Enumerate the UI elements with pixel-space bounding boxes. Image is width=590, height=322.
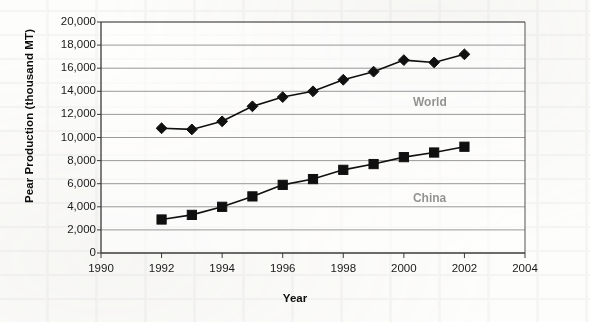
data-point-marker — [308, 174, 317, 183]
data-point-marker — [399, 153, 408, 162]
data-point-marker — [187, 210, 196, 219]
data-point-marker — [278, 180, 287, 189]
data-point-marker — [248, 192, 257, 201]
data-point-marker — [339, 165, 348, 174]
chart-plot-svg — [0, 0, 590, 322]
data-point-marker — [430, 148, 439, 157]
data-point-marker — [369, 159, 378, 168]
data-point-marker — [218, 202, 227, 211]
data-point-marker — [157, 215, 166, 224]
data-point-marker — [460, 142, 469, 151]
